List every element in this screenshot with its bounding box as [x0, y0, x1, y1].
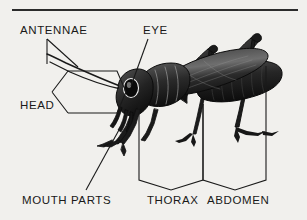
label-abdomen: ABDOMEN [207, 195, 269, 207]
eye-leader-line [131, 39, 148, 86]
label-thorax: THORAX [147, 195, 199, 207]
thorax-bracket [139, 103, 203, 190]
label-antennae: ANTENNAE [20, 25, 87, 37]
abdomen-bracket [203, 66, 266, 190]
head-bracket-tip [52, 71, 68, 113]
label-eye: EYE [143, 25, 168, 37]
head-bracket [68, 71, 126, 113]
label-mouth-parts: MOUTH PARTS [22, 195, 111, 207]
anatomy-figure: ANTENNAE EYE HEAD MOUTH PARTS THORAX ABD… [0, 0, 307, 220]
mouth-parts-leader-line [86, 108, 131, 190]
antennae-leader-line-2 [47, 39, 78, 67]
label-head: HEAD [20, 100, 54, 112]
